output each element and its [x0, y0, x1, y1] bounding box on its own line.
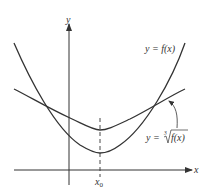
function-diagram: y x x0 y = f(x) y = 3 f(x) [0, 0, 204, 191]
x0-subscript: 0 [99, 181, 103, 189]
label-cube-root-f: y = 3 f(x) [145, 130, 188, 144]
label-f: y = f(x) [144, 43, 176, 55]
x0-label: x0 [94, 176, 103, 189]
label-root-prefix: y = [145, 132, 162, 143]
label-root-index: 3 [163, 130, 167, 136]
label-root-body: f(x) [171, 132, 186, 144]
annotation-arrow [169, 101, 177, 128]
y-axis-label: y [65, 14, 71, 25]
x-axis-label: x [193, 164, 199, 175]
